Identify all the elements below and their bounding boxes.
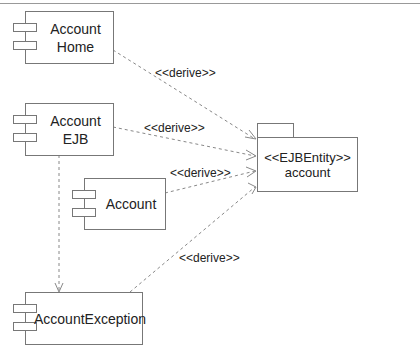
component-label: AccountEJB <box>26 104 113 155</box>
component-label: AccountHome <box>26 12 113 63</box>
component-label: AccountException <box>26 293 142 344</box>
package-name: account <box>285 165 331 180</box>
derive-label-account: <<derive>> <box>170 166 231 180</box>
component-account-ejb[interactable]: AccountEJB <box>25 103 114 156</box>
component-label: Account <box>85 179 165 229</box>
component-account-home[interactable]: AccountHome <box>25 11 114 64</box>
package-tab <box>257 123 294 138</box>
package-ejbentity-account[interactable]: <<EJBEntity>> account <box>257 137 358 192</box>
derive-label-ejb: <<derive>> <box>144 121 205 135</box>
package-stereotype: <<EJBEntity>> <box>264 150 351 165</box>
component-account-exception[interactable]: AccountException <box>25 292 143 345</box>
component-account[interactable]: Account <box>84 178 166 230</box>
derive-label-exception: <<derive>> <box>179 251 240 265</box>
derive-label-home: <<derive>> <box>155 66 216 80</box>
